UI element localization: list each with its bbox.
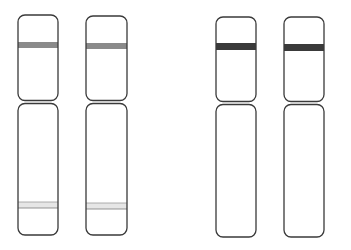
pair-left xyxy=(18,15,127,235)
chromosome-band xyxy=(86,203,127,209)
chromosome xyxy=(86,16,127,235)
chromosome xyxy=(284,17,324,237)
chromosome-band xyxy=(86,43,127,49)
chromosome-band xyxy=(18,202,58,208)
chromosome-diagram xyxy=(0,0,351,250)
chromosome xyxy=(18,15,58,235)
chromosome-band xyxy=(284,44,324,51)
chromosome-band xyxy=(216,43,256,50)
chromosome xyxy=(216,17,256,237)
chromosome-band xyxy=(18,42,58,48)
pair-right xyxy=(216,17,324,237)
